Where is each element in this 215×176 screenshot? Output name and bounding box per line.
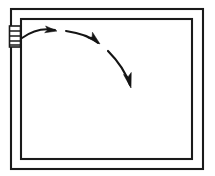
frame-inner-rect	[21, 19, 192, 159]
frame-outer-rect	[11, 9, 203, 169]
arrowhead-1-icon	[45, 26, 58, 34]
swing-arc-group	[22, 29, 130, 85]
figure-canvas	[0, 0, 215, 176]
arrowhead-2-icon	[87, 32, 102, 47]
arrowhead-group	[45, 26, 135, 89]
hinge-group	[10, 26, 21, 47]
swing-path-diagram	[0, 0, 215, 176]
